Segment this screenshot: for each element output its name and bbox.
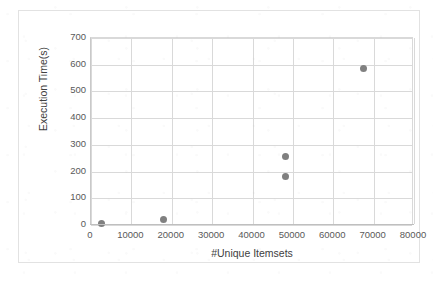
gridline-vertical bbox=[333, 38, 334, 224]
x-axis-tick-label: 40000 bbox=[238, 230, 264, 240]
y-axis-tick-label: 600 bbox=[46, 59, 86, 69]
gridline-vertical bbox=[293, 38, 294, 224]
x-axis-tick-label: 0 bbox=[87, 230, 92, 240]
gridline-horizontal bbox=[91, 172, 412, 173]
gridline-horizontal bbox=[91, 91, 412, 92]
gridline-horizontal bbox=[91, 38, 412, 39]
y-axis-tick-label: 400 bbox=[46, 112, 86, 122]
y-axis-tick-label: 200 bbox=[46, 166, 86, 176]
x-axis-tick-label: 10000 bbox=[117, 230, 143, 240]
gridline-vertical bbox=[414, 38, 415, 224]
x-axis-line bbox=[90, 224, 414, 225]
chart-frame: 0100200300400500600700 01000020000300004… bbox=[18, 10, 420, 263]
x-axis-tick-label: 50000 bbox=[279, 230, 305, 240]
x-axis-tick-label: 70000 bbox=[359, 230, 385, 240]
y-axis-tick-label: 100 bbox=[46, 193, 86, 203]
data-point bbox=[160, 216, 167, 223]
y-axis-title: Execution Time(s) bbox=[37, 39, 49, 139]
data-point bbox=[282, 153, 289, 160]
plot-area bbox=[90, 37, 413, 224]
x-axis-tick-label: 30000 bbox=[198, 230, 224, 240]
gridline-vertical bbox=[374, 38, 375, 224]
gridline-horizontal bbox=[91, 118, 412, 119]
data-point bbox=[282, 173, 289, 180]
x-axis-title: #Unique Itemsets bbox=[90, 247, 414, 259]
x-axis-tick-label: 80000 bbox=[400, 230, 426, 240]
y-axis-tick-label: 0 bbox=[46, 219, 86, 229]
x-axis-tick-label: 20000 bbox=[158, 230, 184, 240]
y-axis-tick-label: 700 bbox=[46, 32, 86, 42]
y-axis-tick-label: 300 bbox=[46, 139, 86, 149]
gridline-horizontal bbox=[91, 145, 412, 146]
gridline-horizontal bbox=[91, 225, 412, 226]
x-axis-tick-label: 60000 bbox=[319, 230, 345, 240]
gridline-vertical bbox=[131, 38, 132, 224]
data-point bbox=[360, 65, 367, 72]
gridline-vertical bbox=[91, 38, 92, 224]
x-axis-tick-labels: 0100002000030000400005000060000700008000… bbox=[19, 230, 433, 244]
gridline-vertical bbox=[172, 38, 173, 224]
gridline-vertical bbox=[253, 38, 254, 224]
gridline-horizontal bbox=[91, 198, 412, 199]
y-axis-tick-label: 500 bbox=[46, 86, 86, 96]
gridline-vertical bbox=[212, 38, 213, 224]
